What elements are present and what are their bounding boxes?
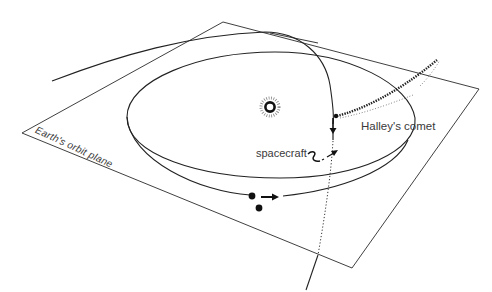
earth-orbit-ellipse xyxy=(127,52,415,178)
earth-dot xyxy=(249,193,256,200)
spacecraft-pointer-squiggle xyxy=(308,152,320,161)
comet-orbit-dotted xyxy=(318,141,333,255)
comet-head xyxy=(334,114,338,118)
comet-direction-arrow-icon xyxy=(330,118,337,134)
comet-label: Halley's comet xyxy=(361,121,435,133)
earth-direction-arrow-icon xyxy=(261,194,279,201)
comet-tail xyxy=(337,60,440,118)
comet-orbit-upper xyxy=(52,32,333,124)
spacecraft-direction-arrow-icon xyxy=(322,150,338,160)
spacecraft-launch-dot xyxy=(256,205,263,212)
spacecraft-label: spacecraft xyxy=(256,148,307,159)
sun-icon xyxy=(261,98,279,116)
comet-orbit-crossing xyxy=(270,33,318,43)
comet-orbit-below-plane xyxy=(306,255,318,290)
earth-orbit-plane xyxy=(22,22,479,268)
